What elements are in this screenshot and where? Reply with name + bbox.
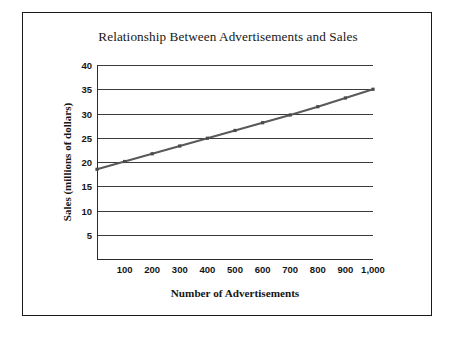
x-axis-tick-label: 900 xyxy=(337,264,353,275)
x-axis-line xyxy=(97,259,373,260)
y-axis-tick-label: 5 xyxy=(87,229,92,240)
chart-frame: Relationship Between Advertisements and … xyxy=(22,12,432,316)
data-point-marker xyxy=(178,144,181,147)
data-series-line xyxy=(97,65,373,259)
data-point-marker xyxy=(371,88,374,91)
x-axis-title: Number of Advertisements xyxy=(97,287,373,299)
x-axis-tick-label: 800 xyxy=(310,264,326,275)
y-axis-tick-label: 15 xyxy=(81,181,92,192)
y-axis-tick-label: 25 xyxy=(81,132,92,143)
x-axis-tick-label: 600 xyxy=(255,264,271,275)
data-point-marker xyxy=(95,168,98,171)
x-axis-tick-label: 100 xyxy=(117,264,133,275)
data-point-marker xyxy=(344,96,347,99)
data-point-marker xyxy=(151,152,154,155)
data-point-marker xyxy=(261,121,264,124)
data-point-marker xyxy=(289,113,292,116)
x-axis-tick-label: 200 xyxy=(144,264,160,275)
data-point-marker xyxy=(123,160,126,163)
x-axis-tick-label: 400 xyxy=(199,264,215,275)
y-axis-tick-label: 10 xyxy=(81,205,92,216)
chart-title: Relationship Between Advertisements and … xyxy=(23,29,433,45)
x-axis-tick-label: 500 xyxy=(227,264,243,275)
data-point-marker xyxy=(316,105,319,108)
plot-area: 510152025303540 100200300400500600700800… xyxy=(97,65,373,259)
y-axis-tick-label: 40 xyxy=(81,60,92,71)
y-axis-tick-label: 30 xyxy=(81,108,92,119)
y-axis-title: Sales (millions of dollars) xyxy=(61,65,77,259)
figure: Relationship Between Advertisements and … xyxy=(0,0,457,337)
y-axis-tick-label: 35 xyxy=(81,84,92,95)
y-axis-tick-label: 20 xyxy=(81,157,92,168)
x-axis-tick-label: 700 xyxy=(282,264,298,275)
data-point-marker xyxy=(233,129,236,132)
x-axis-tick-label: 1,000 xyxy=(361,264,385,275)
x-axis-tick-label: 300 xyxy=(172,264,188,275)
data-point-marker xyxy=(206,137,209,140)
